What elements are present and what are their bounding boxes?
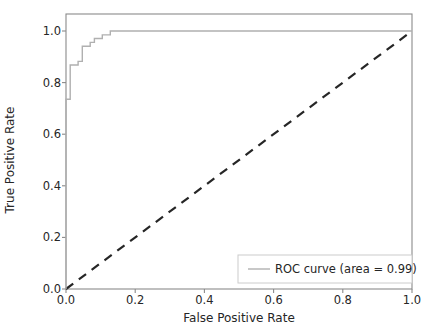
roc-curve-figure: 0.0 0.2 0.4 0.6 0.8 1.0 0.0 0.2 0.4 0.6 … [0,0,432,332]
x-tick-label-5: 1.0 [403,293,421,307]
chance-diagonal-line [66,31,412,289]
y-tick-label-1: 0.2 [43,230,61,244]
x-axis-ticks [66,289,412,293]
plot-canvas [0,0,432,332]
x-tick-label-2: 0.4 [195,293,213,307]
x-axis-label: False Positive Rate [183,311,295,325]
y-tick-label-0: 0.0 [43,282,61,296]
x-tick-label-4: 0.8 [334,293,352,307]
y-tick-label-4: 0.8 [43,76,61,90]
legend-label-roc-curve: ROC curve (area = 0.99) [275,262,417,276]
plot-frame [66,14,412,289]
y-tick-label-5: 1.0 [43,24,61,38]
axes-spines [66,14,412,289]
y-tick-label-3: 0.6 [43,127,61,141]
x-tick-label-3: 0.6 [264,293,282,307]
y-axis-label: True Positive Rate [3,107,17,214]
y-tick-label-2: 0.4 [43,179,61,193]
x-tick-label-1: 0.2 [126,293,144,307]
